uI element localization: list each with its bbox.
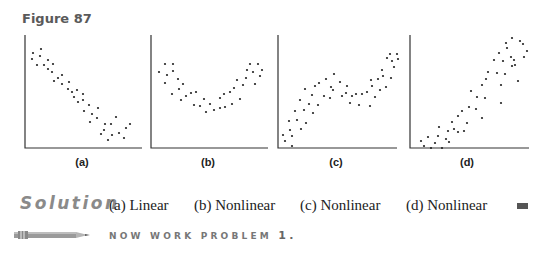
data-point — [457, 115, 459, 117]
data-point — [385, 86, 387, 88]
data-point — [97, 107, 99, 109]
data-point — [77, 101, 79, 103]
data-point — [31, 58, 33, 60]
data-point — [461, 110, 463, 112]
answer-d-label: (d) — [406, 197, 424, 213]
data-point — [308, 103, 310, 105]
data-point — [305, 122, 307, 124]
data-point — [193, 104, 195, 106]
data-point — [526, 50, 528, 52]
data-point — [172, 63, 174, 65]
data-point — [475, 108, 477, 110]
data-point — [96, 117, 98, 119]
data-point — [76, 89, 78, 91]
data-point — [505, 42, 507, 44]
data-point — [510, 56, 512, 58]
data-point — [123, 137, 125, 139]
data-point — [317, 104, 319, 106]
data-point — [166, 74, 168, 76]
axes — [278, 35, 397, 148]
data-point — [284, 140, 286, 142]
data-point — [219, 107, 221, 109]
data-point — [448, 141, 450, 143]
scatter-panel-b — [150, 34, 270, 149]
data-point — [504, 73, 506, 75]
data-point — [447, 130, 449, 132]
answer-a-label: (a) — [109, 197, 126, 213]
data-point — [32, 52, 34, 54]
now-work-problem[interactable]: NOW WORK PROBLEM 1. — [14, 226, 414, 244]
problem-number[interactable]: 1. — [278, 229, 296, 242]
data-point — [111, 134, 113, 136]
data-point — [195, 91, 197, 93]
data-point — [82, 99, 84, 101]
data-point — [382, 75, 384, 77]
data-point — [484, 97, 486, 99]
data-point — [43, 64, 45, 66]
data-point — [213, 109, 215, 111]
data-point — [511, 65, 513, 67]
data-point — [110, 123, 112, 125]
data-point — [506, 47, 508, 49]
data-point — [219, 97, 221, 99]
data-point — [299, 99, 301, 101]
data-point — [522, 43, 524, 45]
data-point — [311, 94, 313, 96]
data-point — [500, 84, 502, 86]
data-point — [498, 52, 500, 54]
solution-row: Solution (a) Linear (b) Nonlinear (c) No… — [20, 194, 540, 216]
data-point — [325, 78, 327, 80]
data-point — [468, 106, 470, 108]
data-point — [496, 72, 498, 74]
data-point — [329, 97, 331, 99]
data-point — [229, 91, 231, 93]
answer-d-text: Nonlinear — [427, 197, 487, 213]
data-point — [53, 80, 55, 82]
data-point — [88, 104, 90, 106]
data-point — [303, 109, 305, 111]
data-point — [71, 91, 73, 93]
data-point — [100, 133, 102, 135]
data-point — [172, 70, 174, 72]
scatter-panel-d — [409, 34, 531, 149]
data-point — [369, 105, 371, 107]
answer-b: (b) Nonlinear — [194, 197, 275, 214]
data-point — [514, 64, 516, 66]
scatter-plot-b — [150, 34, 270, 149]
data-point — [377, 78, 379, 80]
answer-b-label: (b) — [194, 197, 212, 213]
data-point — [487, 71, 489, 73]
data-point — [361, 93, 363, 95]
data-point — [246, 69, 248, 71]
panel-label-d: (d) — [447, 156, 487, 168]
data-point — [259, 75, 261, 77]
data-point — [323, 95, 325, 97]
data-point — [437, 135, 439, 137]
data-point — [177, 78, 179, 80]
data-point — [129, 123, 131, 125]
data-point — [351, 95, 353, 97]
data-point — [312, 112, 314, 114]
data-point — [257, 63, 259, 65]
data-point — [40, 48, 42, 50]
data-point — [318, 82, 320, 84]
data-point — [370, 79, 372, 81]
data-point — [203, 98, 205, 100]
data-point — [164, 82, 166, 84]
data-point — [104, 123, 106, 125]
pencil-icon — [14, 227, 94, 245]
scatter-panel-c — [277, 34, 399, 149]
data-point — [519, 40, 521, 42]
answer-a: (a) Linear — [109, 197, 169, 214]
data-point — [296, 119, 298, 121]
data-point — [288, 120, 290, 122]
data-point — [47, 68, 49, 70]
data-point — [358, 104, 360, 106]
data-point — [291, 135, 293, 137]
data-point — [73, 96, 75, 98]
data-point — [463, 130, 465, 132]
data-point — [252, 71, 254, 73]
data-point — [466, 122, 468, 124]
data-point — [178, 88, 180, 90]
data-point — [289, 129, 291, 131]
